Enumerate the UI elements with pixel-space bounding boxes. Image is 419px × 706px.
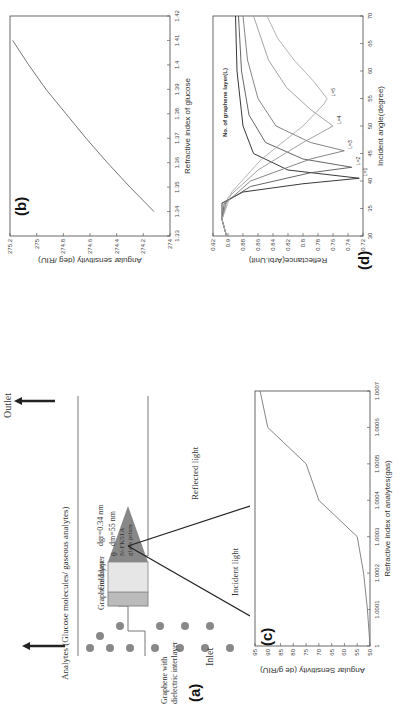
x-tick-label: 1.0004 — [374, 490, 380, 509]
dgr-label: dgr=0.34 nm — [96, 505, 105, 546]
prism-label-1: N-FK51A — [118, 528, 126, 556]
x-tick-label: 1.0002 — [374, 563, 380, 582]
x-tick-label: 1.0007 — [374, 381, 380, 400]
y-tick-label: 274 — [167, 238, 173, 249]
y-axis-label: Angular Sensitivity (de g/RIU) — [260, 666, 365, 675]
y-tick-label: 0.9 — [225, 238, 231, 247]
y-tick-label: 95 — [252, 648, 258, 655]
y-tick-label: 65 — [329, 648, 335, 655]
y-tick-label: 0.82 — [285, 238, 291, 250]
y-tick-label: 0.88 — [240, 238, 246, 250]
y-axis-label: Reflectance(Arbi.Unit) — [249, 256, 328, 265]
y-tick-label: 274.4 — [114, 238, 120, 254]
x-tick-label: 1.36 — [174, 156, 180, 168]
x-tick-label: 1.35 — [174, 181, 180, 193]
x-tick-label: 1.34 — [174, 205, 180, 217]
y-tick-label: 85 — [278, 648, 284, 655]
x-tick-label: 1.39 — [174, 83, 180, 95]
reflected-light-label: Reflected light — [190, 447, 200, 500]
x-tick-label: 45 — [367, 150, 373, 157]
panel-b: (b) 1.331.341.351.361.371.381.391.41.411… — [0, 0, 200, 276]
plot-frame — [255, 391, 370, 646]
data-series — [222, 16, 327, 236]
x-tick-label: 1.41 — [174, 34, 180, 46]
panel-d: (d) 3035404550556065700.720.740.760.780.… — [205, 0, 400, 276]
chart-d: 3035404550556065700.720.740.760.780.80.8… — [205, 0, 400, 276]
y-tick-label: 60 — [341, 648, 347, 655]
x-tick-label: 1.0003 — [374, 527, 380, 546]
data-series — [222, 16, 333, 236]
x-tick-label: 70 — [367, 12, 373, 19]
x-tick-label: 35 — [367, 205, 373, 212]
x-tick-label: 1.0001 — [374, 600, 380, 619]
y-tick-label: 274.8 — [60, 238, 66, 254]
y-tick-label: 70 — [316, 648, 322, 655]
x-tick-label: 40 — [367, 177, 373, 184]
panel-c: (c) 11.00011.00021.00031.00041.00051.000… — [250, 376, 400, 706]
series-label: L=2 — [355, 157, 361, 166]
x-tick-label: 1.33 — [174, 230, 180, 242]
x-tick-label: 60 — [367, 67, 373, 74]
y-tick-label: 275.2 — [7, 238, 13, 254]
series-label: L=5 — [330, 88, 336, 97]
inlet-label: Inlet — [204, 648, 215, 666]
inset-caption-2: dielectric interlayer — [170, 642, 179, 704]
series-label: L=4 — [336, 115, 342, 124]
figure: (a) Inlet Out — [0, 0, 419, 706]
y-tick-label: 0.8 — [300, 238, 306, 247]
y-tick-label: 75 — [303, 648, 309, 655]
incident-light-label: Incident light — [230, 548, 240, 596]
x-tick-label: 1.37 — [174, 132, 180, 144]
x-tick-label: 1.38 — [174, 107, 180, 119]
legend-title: No. of graphene layer(L) — [222, 68, 228, 137]
x-tick-label: 1.42 — [174, 10, 180, 22]
gold-layer-label: Gold layer — [97, 556, 106, 590]
inset-caption-1: Graphene with — [160, 657, 169, 704]
x-tick-label: 1 — [374, 644, 380, 648]
data-series — [13, 40, 154, 211]
analytes-label: Analytes (Glucose molecules/ gaseous ana… — [60, 507, 70, 680]
y-tick-label: 50 — [367, 648, 373, 655]
y-tick-label: 275 — [34, 238, 40, 249]
x-tick-label: 1.4 — [174, 60, 180, 69]
plot-frame — [213, 16, 363, 236]
y-tick-label: 274.6 — [87, 238, 93, 254]
x-tick-label: 50 — [367, 122, 373, 129]
y-tick-label: 0.72 — [360, 238, 366, 250]
outlet-label: Outlet — [2, 393, 13, 418]
x-axis-label: Incident angle(degree) — [376, 86, 385, 166]
y-tick-label: 55 — [354, 648, 360, 655]
data-series — [260, 391, 370, 646]
y-tick-label: 80 — [290, 648, 296, 655]
x-tick-label: 1.0006 — [374, 418, 380, 437]
y-tick-label: 274.2 — [140, 238, 146, 254]
series-label: L=1 — [362, 168, 368, 177]
panel-a: (a) Inlet Out — [0, 376, 250, 706]
x-tick-label: 30 — [367, 232, 373, 239]
y-axis-label: Angular sensitivity (deg /RIU) — [38, 256, 142, 265]
y-tick-label: 0.84 — [270, 238, 276, 250]
x-axis-label: Refractive index of analytes(gas) — [383, 460, 392, 577]
dm-label: dm=55 nm — [108, 511, 117, 546]
theta-label: θ — [110, 552, 119, 556]
x-tick-label: 65 — [367, 40, 373, 47]
y-tick-label: 0.76 — [330, 238, 336, 250]
chart-b: 1.331.341.351.361.371.381.391.41.411.422… — [0, 0, 200, 276]
y-tick-label: 90 — [265, 648, 271, 655]
y-tick-label: 0.86 — [255, 238, 261, 250]
series-label: L=3 — [347, 140, 353, 149]
y-tick-label: 0.78 — [315, 238, 321, 250]
x-axis-label: Refractive index of glucose — [183, 77, 192, 174]
y-tick-label: 0.74 — [345, 238, 351, 250]
chart-c: 11.00011.00021.00031.00041.00051.00061.0… — [250, 376, 400, 706]
prism-label-2: glass prism — [126, 524, 134, 556]
x-tick-label: 1.0005 — [374, 454, 380, 473]
x-tick-label: 55 — [367, 95, 373, 102]
y-tick-label: 0.92 — [210, 238, 216, 250]
data-series — [222, 16, 359, 236]
